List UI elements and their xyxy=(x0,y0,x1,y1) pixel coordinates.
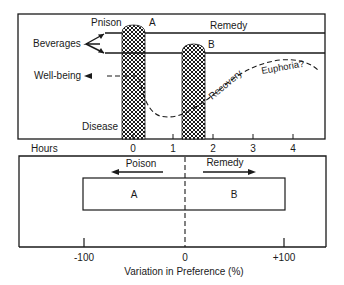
hours-axis-label: Hours xyxy=(31,143,58,154)
pref-tick-0: 0 xyxy=(182,252,188,263)
label-a: A xyxy=(149,17,156,28)
preference-box xyxy=(83,178,285,210)
hours-tick-4: 4 xyxy=(290,143,296,154)
label-poison: Pnison xyxy=(91,17,122,28)
pref-tick-minus-100: -100 xyxy=(74,252,94,263)
bottom-panel-frame xyxy=(19,156,326,247)
poison-a-column xyxy=(122,25,145,139)
hours-ticks xyxy=(133,134,293,139)
pref-tick-plus-100: +100 xyxy=(273,252,296,263)
label-euphoria: Euphoria? xyxy=(260,58,305,76)
hours-tick-0: 0 xyxy=(130,143,136,154)
label-well-being: Well-being xyxy=(34,70,81,81)
label-disease: Disease xyxy=(82,121,119,132)
remedy-arrowhead xyxy=(248,169,256,175)
remedy-b-column xyxy=(182,44,205,139)
label-beverages: Beverages xyxy=(33,38,81,49)
bottom-panel: Poison Remedy A B -100 0 +100 Variation … xyxy=(19,156,326,277)
poison-arrowhead xyxy=(111,169,119,175)
hours-tick-1: 1 xyxy=(170,143,176,154)
label-recovery: Recovery xyxy=(206,67,244,101)
diagram-canvas: Pnison A Remedy B Beverages Well-being D… xyxy=(0,0,344,285)
bottom-label-b: B xyxy=(231,189,238,200)
label-b: B xyxy=(208,39,215,50)
bottom-label-remedy: Remedy xyxy=(206,157,243,168)
hours-tick-3: 3 xyxy=(250,143,256,154)
preference-ticks xyxy=(84,238,284,247)
top-panel: Pnison A Remedy B Beverages Well-being D… xyxy=(18,14,325,154)
bottom-label-poison: Poison xyxy=(126,158,157,169)
label-remedy: Remedy xyxy=(210,20,247,31)
well-being-arrow-icon xyxy=(84,73,92,79)
bottom-label-a: A xyxy=(131,189,138,200)
hours-tick-2: 2 xyxy=(210,143,216,154)
preference-axis-label: Variation in Preference (%) xyxy=(124,266,243,277)
